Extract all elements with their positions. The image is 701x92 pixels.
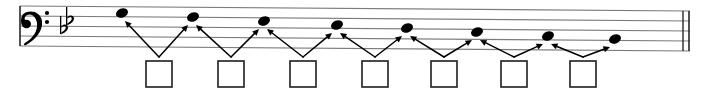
- answer-box-4[interactable]: [362, 61, 388, 87]
- answer-box-outline-3[interactable]: [290, 61, 316, 87]
- arrow-box-6-to-note-6: [480, 40, 514, 57]
- music-score: [0, 0, 701, 92]
- arrow-box-3-to-note-4-shaft: [303, 37, 327, 57]
- answer-box-1[interactable]: [146, 61, 172, 87]
- answer-box-2[interactable]: [218, 61, 244, 87]
- arrow-box-6-to-note-7-shaft: [514, 47, 537, 57]
- arrow-box-1-to-note-2-shaft: [159, 30, 184, 57]
- arrow-box-3-to-note-4: [303, 33, 332, 57]
- notehead-4: [330, 19, 345, 32]
- staff-line-3: [20, 26, 690, 31]
- arrow-box-1-to-note-1-shaft: [129, 26, 159, 57]
- notehead-6: [470, 26, 485, 39]
- notehead-2: [186, 11, 201, 24]
- arrow-box-1-to-note-2: [159, 25, 188, 57]
- notehead-3: [257, 15, 272, 28]
- answer-box-outline-5[interactable]: [431, 61, 457, 87]
- arrow-box-7-to-note-7-shaft: [557, 46, 583, 57]
- arrow-box-5-to-note-5-shaft: [416, 39, 444, 57]
- answer-box-3[interactable]: [290, 61, 316, 87]
- notehead-8: [608, 33, 623, 46]
- music-worksheet: [0, 0, 701, 92]
- notehead-1: [115, 7, 130, 20]
- arrow-box-7-to-note-8: [583, 46, 610, 57]
- arrow-box-4-to-note-4: [340, 33, 375, 57]
- arrow-box-4-to-note-4-shaft: [345, 37, 375, 57]
- answer-box-outline-1[interactable]: [146, 61, 172, 87]
- noteheads-group: [115, 7, 623, 46]
- answer-box-outline-4[interactable]: [362, 61, 388, 87]
- notation-stage: [0, 0, 701, 92]
- arrow-box-2-to-note-2: [196, 25, 231, 57]
- staff-line-5: [20, 46, 690, 51]
- staff-line-4: [20, 36, 690, 41]
- answer-box-5[interactable]: [431, 61, 457, 87]
- answer-box-6[interactable]: [501, 61, 527, 87]
- arrow-box-3-to-note-3-shaft: [272, 33, 303, 57]
- answer-boxes-group: [146, 61, 596, 87]
- answer-box-outline-7[interactable]: [570, 61, 596, 87]
- arrow-box-2-to-note-2-shaft: [201, 29, 231, 57]
- arrow-box-5-to-note-6-shaft: [444, 43, 466, 57]
- flat-icon-1: [66, 7, 74, 25]
- notehead-5: [400, 22, 415, 35]
- answer-box-7[interactable]: [570, 61, 596, 87]
- key-signature-two-flats: [60, 7, 74, 34]
- arrow-box-5-to-note-6: [444, 40, 472, 57]
- arrow-box-2-to-note-3: [231, 29, 259, 57]
- answer-box-outline-2[interactable]: [218, 61, 244, 87]
- arrow-box-3-to-note-3: [267, 29, 303, 57]
- answer-box-outline-6[interactable]: [501, 61, 527, 87]
